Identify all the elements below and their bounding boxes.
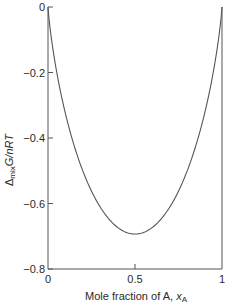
y-tick-label: −0.6 bbox=[23, 198, 45, 210]
mixing-gibbs-curve bbox=[48, 7, 222, 234]
plot-axes bbox=[48, 7, 222, 269]
y-tick-label: 0 bbox=[39, 1, 45, 13]
y-tick-label: −0.2 bbox=[23, 67, 45, 79]
mixing-gibbs-energy-chart: 0−0.2−0.4−0.6−0.8 00.51 ΔmixG/nRT Mole f… bbox=[0, 0, 230, 308]
x-tick-label: 0.5 bbox=[127, 273, 142, 285]
x-axis-label: Mole fraction of A, xA bbox=[85, 290, 188, 304]
y-axis-label: ΔmixG/nRT bbox=[3, 133, 17, 186]
y-axis-ticks: 0−0.2−0.4−0.6−0.8 bbox=[23, 1, 53, 275]
x-tick-label: 1 bbox=[219, 273, 225, 285]
axis-lines bbox=[48, 7, 222, 269]
y-tick-label: −0.4 bbox=[23, 132, 45, 144]
y-tick-label: −0.8 bbox=[23, 263, 45, 275]
x-tick-label: 0 bbox=[45, 273, 51, 285]
x-axis-ticks: 00.51 bbox=[45, 264, 225, 285]
